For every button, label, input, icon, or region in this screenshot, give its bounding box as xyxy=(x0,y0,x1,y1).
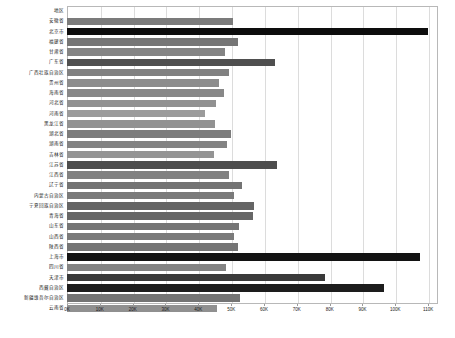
x-tick-mark xyxy=(100,304,101,306)
bar-row: 山西省 xyxy=(0,232,455,242)
bar[interactable] xyxy=(67,151,214,158)
bar-track xyxy=(67,88,455,98)
x-tick-label: 50K xyxy=(227,307,235,312)
x-tick-label: 20K xyxy=(129,307,137,312)
bar-label: 河北省 xyxy=(0,100,67,106)
bar[interactable] xyxy=(67,264,226,271)
bar-label: 海南省 xyxy=(0,90,67,96)
bar-track xyxy=(67,201,455,211)
bar[interactable] xyxy=(67,28,428,35)
bar-track xyxy=(67,150,455,160)
x-tick-mark xyxy=(362,304,363,306)
bar-row: 天津市 xyxy=(0,273,455,283)
bar-label: 北京市 xyxy=(0,29,67,35)
bar-track xyxy=(67,242,455,252)
bar[interactable] xyxy=(67,48,225,55)
bar[interactable] xyxy=(67,141,227,148)
bar[interactable] xyxy=(67,212,253,219)
bar-track xyxy=(67,119,455,129)
bar-row: 河北省 xyxy=(0,98,455,108)
column-header-row: 地区 xyxy=(0,6,455,16)
bar-label: 西藏自治区 xyxy=(0,285,67,291)
bar-track xyxy=(67,129,455,139)
x-tick-label: 100K xyxy=(390,307,401,312)
x-tick-mark xyxy=(330,304,331,306)
bar[interactable] xyxy=(67,18,233,25)
bar-row: 广西壮族自治区 xyxy=(0,68,455,78)
bar[interactable] xyxy=(67,69,229,76)
bar-row: 辽宁省 xyxy=(0,180,455,190)
bar-label: 湖北省 xyxy=(0,131,67,137)
bar-track xyxy=(67,180,455,190)
bar-label: 福建省 xyxy=(0,39,67,45)
bar[interactable] xyxy=(67,100,216,107)
bar[interactable] xyxy=(67,243,238,250)
bar[interactable] xyxy=(67,294,240,301)
bar-row: 江苏省 xyxy=(0,160,455,170)
bar-row: 湖南省 xyxy=(0,139,455,149)
bar-row: 贵州省 xyxy=(0,78,455,88)
bar[interactable] xyxy=(67,182,242,189)
bar-row: 四川省 xyxy=(0,262,455,272)
bar-track xyxy=(67,170,455,180)
bar[interactable] xyxy=(67,79,219,86)
bar-label: 广西壮族自治区 xyxy=(0,70,67,76)
bar-row: 河南省 xyxy=(0,109,455,119)
bar-row: 上海市 xyxy=(0,252,455,262)
bar-row: 山东省 xyxy=(0,221,455,231)
x-tick-label: 60K xyxy=(260,307,268,312)
bar-row: 广东省 xyxy=(0,57,455,67)
bar[interactable] xyxy=(67,192,234,199)
x-tick-label: 90K xyxy=(358,307,366,312)
bar[interactable] xyxy=(67,223,239,230)
x-tick-label: 70K xyxy=(293,307,301,312)
x-tick-label: 30K xyxy=(161,307,169,312)
bar[interactable] xyxy=(67,202,254,209)
bar-row: 安徽省 xyxy=(0,16,455,26)
bar[interactable] xyxy=(67,89,224,96)
bar-row: 海南省 xyxy=(0,88,455,98)
bar-label: 陕西省 xyxy=(0,244,67,250)
bar-row: 吉林省 xyxy=(0,150,455,160)
x-tick-label: 10K xyxy=(96,307,104,312)
bar[interactable] xyxy=(67,38,238,45)
bar-track xyxy=(67,47,455,57)
bar[interactable] xyxy=(67,120,215,127)
bar-chart: 地区 安徽省北京市福建省甘肃省广东省广西壮族自治区贵州省海南省河北省河南省黑龙江… xyxy=(0,0,455,338)
x-tick-mark xyxy=(67,304,68,306)
bar-label: 安徽省 xyxy=(0,18,67,24)
bar-track xyxy=(67,98,455,108)
x-tick-mark xyxy=(231,304,232,306)
bar-row: 黑龙江省 xyxy=(0,119,455,129)
bar-row: 陕西省 xyxy=(0,242,455,252)
bar-label: 山西省 xyxy=(0,234,67,240)
bar[interactable] xyxy=(67,171,229,178)
bar[interactable] xyxy=(67,284,384,291)
bar-row: 青海省 xyxy=(0,211,455,221)
bar-row: 内蒙古自治区 xyxy=(0,191,455,201)
bar-track xyxy=(67,109,455,119)
bar[interactable] xyxy=(67,130,231,137)
bar-track xyxy=(67,78,455,88)
bar-label: 辽宁省 xyxy=(0,182,67,188)
bar-track xyxy=(67,139,455,149)
bar-label: 贵州省 xyxy=(0,80,67,86)
bar[interactable] xyxy=(67,253,420,260)
bar-label: 青海省 xyxy=(0,213,67,219)
bar-row: 湖北省 xyxy=(0,129,455,139)
x-tick-label: 40K xyxy=(194,307,202,312)
bar-row: 宁夏回族自治区 xyxy=(0,201,455,211)
bar[interactable] xyxy=(67,233,234,240)
bar-track xyxy=(67,283,455,293)
x-tick-mark xyxy=(297,304,298,306)
bar[interactable] xyxy=(67,59,275,66)
x-tick-label: 80K xyxy=(326,307,334,312)
bar-label: 上海市 xyxy=(0,254,67,260)
bar[interactable] xyxy=(67,274,325,281)
bar-track xyxy=(67,211,455,221)
bar-track xyxy=(67,252,455,262)
bar-row: 甘肃省 xyxy=(0,47,455,57)
bar-track xyxy=(67,221,455,231)
bar[interactable] xyxy=(67,110,205,117)
bar[interactable] xyxy=(67,161,277,168)
